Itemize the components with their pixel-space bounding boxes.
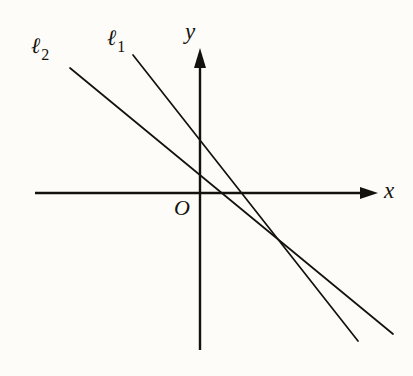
line-l1-symbol: ℓ	[107, 25, 116, 50]
origin-label: O	[174, 197, 190, 219]
line-l2-symbol: ℓ	[31, 33, 40, 58]
line-l1-label: ℓ1	[107, 27, 124, 49]
y-axis-label: y	[185, 20, 195, 43]
diagram-canvas	[0, 0, 413, 376]
coordinate-diagram: y x O ℓ1 ℓ2	[0, 0, 413, 376]
line-l2-subscript: 2	[41, 46, 49, 63]
x-axis-arrowhead-icon	[360, 187, 378, 199]
line-l2-label: ℓ2	[31, 35, 48, 57]
line-l1-subscript: 1	[117, 38, 125, 55]
y-axis-arrowhead-icon	[194, 48, 206, 68]
y-axis	[194, 48, 206, 350]
x-axis	[35, 187, 378, 199]
line-l2	[70, 68, 393, 334]
line-l1	[133, 55, 358, 341]
x-axis-label: x	[384, 179, 394, 202]
